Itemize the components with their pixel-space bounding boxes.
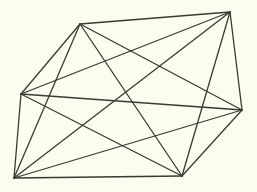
complete-graph-diagram (0, 0, 257, 192)
edge-BE (14, 12, 230, 178)
edge-AF (21, 24, 80, 94)
edge-CF (21, 94, 242, 110)
edge-BD (182, 12, 230, 176)
graph-edges (14, 12, 242, 178)
edge-CE (14, 110, 242, 178)
edge-AC (80, 24, 242, 110)
edge-BC (230, 12, 242, 110)
edge-BF (21, 12, 230, 94)
edge-AE (14, 24, 80, 178)
edge-DE (14, 176, 182, 178)
edge-AB (80, 12, 230, 24)
